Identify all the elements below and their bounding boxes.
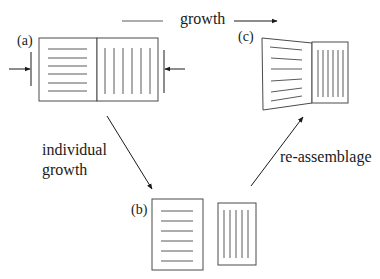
individual-growth-label-line1: individual: [42, 141, 107, 158]
arrow-down-right-icon: [107, 116, 152, 189]
panel-a-left-block: [39, 38, 97, 101]
top-growth-legend: growth: [122, 10, 277, 28]
right-compression-arrow-icon: [164, 50, 185, 93]
left-compression-arrow-icon: [9, 52, 31, 86]
panel-b-label: (b): [131, 202, 148, 218]
individual-growth-label-line2: growth: [42, 161, 87, 179]
panel-b: (b): [131, 199, 256, 270]
panel-a-right-block: [97, 38, 158, 101]
diagram-canvas: growth (a): [0, 0, 380, 279]
panel-a-label: (a): [17, 33, 33, 49]
re-assemblage-label: re-assemblage: [280, 148, 372, 166]
edge-b-to-c: re-assemblage: [251, 117, 372, 186]
edge-a-to-b: individual growth: [42, 116, 152, 189]
panel-c: (c): [238, 29, 348, 110]
top-growth-label: growth: [180, 10, 225, 28]
panel-b-left-block: [152, 199, 203, 270]
panel-a: (a): [9, 33, 185, 101]
panel-c-label: (c): [238, 29, 254, 45]
